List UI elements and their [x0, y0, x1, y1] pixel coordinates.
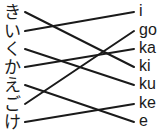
romaji-item: ku: [139, 75, 156, 93]
romaji-item: i: [139, 2, 143, 20]
kana-item: き: [2, 3, 22, 21]
connection-line: [25, 85, 134, 122]
connection-line: [25, 12, 134, 31]
connection-line: [25, 104, 134, 122]
kana-item: け: [2, 113, 22, 131]
connection-line: [25, 31, 134, 104]
kana-item: い: [2, 22, 22, 40]
romaji-item: ka: [139, 39, 156, 57]
matching-diagram: きいくかえごけ igokakikukee: [0, 0, 160, 131]
kana-item: か: [2, 58, 22, 76]
romaji-item: e: [139, 112, 148, 130]
connection-lines: [0, 0, 160, 131]
romaji-item: ke: [139, 94, 156, 112]
kana-item: え: [2, 76, 22, 94]
romaji-item: ki: [139, 57, 151, 75]
kana-item: く: [2, 40, 22, 58]
kana-item: ご: [2, 95, 22, 113]
romaji-item: go: [139, 21, 157, 39]
